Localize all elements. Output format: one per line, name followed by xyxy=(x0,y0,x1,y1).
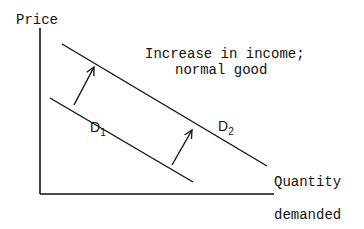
curve-label-d2: D2 xyxy=(218,118,234,137)
shift-arrow-upper xyxy=(74,67,94,105)
diagram-title-line2: normal good xyxy=(175,62,267,78)
diagram-canvas: Price Increase in income; normal good Qu… xyxy=(0,0,364,229)
shift-arrow-lower xyxy=(172,130,192,165)
demand-curve-d1 xyxy=(50,98,193,182)
y-axis-label: Price xyxy=(16,12,58,28)
curve-label-d1: D1 xyxy=(90,119,106,138)
x-axis-label-line1: Quantity xyxy=(274,174,341,190)
diagram-title-line1: Increase in income; xyxy=(145,46,305,62)
x-axis-label-line2: demanded xyxy=(274,207,341,223)
demand-shift-diagram: Price Increase in income; normal good Qu… xyxy=(0,0,364,229)
